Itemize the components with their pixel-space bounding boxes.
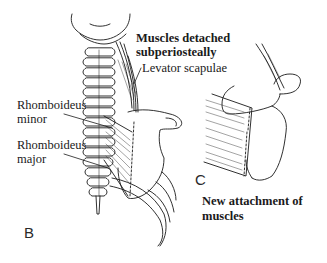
label-muscles: muscles [202, 209, 244, 223]
anatomical-figure: Muscles detached subperiosteally Levator… [0, 0, 327, 263]
label-rhomboideus-minor-2: minor [17, 112, 47, 126]
label-levator-scapulae: Levator scapulae [142, 61, 227, 75]
panel-label-c: C [195, 171, 206, 188]
label-rhomboideus-major-2: major [17, 152, 46, 166]
head-outline [71, 14, 130, 44]
label-rhomboideus-major-1: Rhomboideus [17, 138, 86, 152]
label-new-attachment: New attachment of [202, 194, 303, 208]
panel-label-b: B [24, 224, 34, 241]
reattached-muscle-block [204, 94, 252, 176]
levator-scapulae-muscle [116, 42, 138, 112]
spine [83, 48, 115, 214]
label-muscles-detached: Muscles detached [136, 31, 230, 45]
label-rhomboideus-minor-1: Rhomboideus [17, 98, 86, 112]
label-subperiosteally: subperiosteally [136, 45, 217, 59]
scapula-c [222, 44, 301, 180]
